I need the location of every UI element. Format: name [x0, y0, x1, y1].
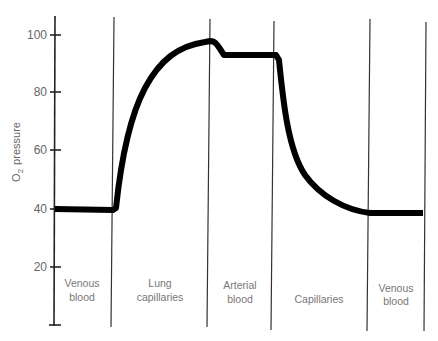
y-tick-80: 80	[34, 85, 61, 99]
region-label-lung-capillaries: Lung capillaries	[137, 277, 184, 303]
region-divider	[207, 19, 210, 327]
tick-label: 60	[34, 143, 48, 157]
svg-text:Venous: Venous	[64, 277, 99, 289]
region-label-venous-blood-right: Venous blood	[378, 282, 413, 307]
svg-text:blood: blood	[69, 291, 95, 303]
y-axis	[54, 16, 55, 326]
tick-label: 100	[27, 28, 47, 42]
region-divider	[367, 19, 370, 331]
region-divider	[424, 22, 426, 331]
y-tick-20: 20	[34, 260, 61, 274]
svg-text:Capillaries: Capillaries	[294, 293, 343, 305]
region-label-venous-blood-left: Venous blood	[64, 277, 99, 303]
y-axis-title: O2pressure	[10, 122, 25, 182]
y-tick-60: 60	[34, 143, 61, 157]
region-label-capillaries: Capillaries	[294, 293, 343, 305]
y-tick-100: 100	[27, 28, 61, 42]
region-divider	[111, 17, 114, 327]
region-label-arterial-blood: Arterial blood	[223, 279, 256, 305]
tick-label: 40	[34, 202, 48, 216]
svg-text:blood: blood	[227, 293, 253, 305]
svg-text:capillaries: capillaries	[137, 291, 184, 303]
svg-text:Lung: Lung	[148, 277, 172, 289]
tick-label: 80	[34, 85, 48, 99]
o2-pressure-chart: 100 80 60 40 20 O2pressure Venous blood …	[0, 0, 438, 341]
svg-text:Arterial: Arterial	[223, 279, 256, 291]
region-divider	[271, 21, 274, 330]
svg-text:blood: blood	[383, 295, 409, 307]
svg-text:Venous: Venous	[378, 282, 413, 294]
tick-label: 20	[34, 260, 48, 274]
